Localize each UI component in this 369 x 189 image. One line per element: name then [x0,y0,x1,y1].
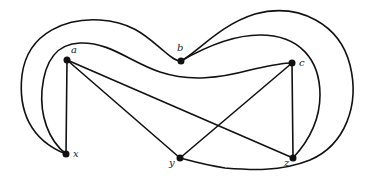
node-a [64,57,71,64]
graph-diagram: a b c x y z [0,0,369,189]
node-y [177,155,184,162]
edge-c-z [292,63,293,158]
edge-a-z [67,60,293,158]
label-b: b [177,42,183,53]
label-x: x [73,148,79,159]
node-z [290,155,297,162]
edge-x-b-outer [21,20,181,154]
label-a: a [71,44,77,55]
edge-x-c-inner [42,43,292,154]
label-z: z [283,157,290,168]
node-x [63,151,70,158]
label-y: y [168,157,175,168]
node-c [289,60,296,67]
label-c: c [299,57,305,68]
node-b [178,58,185,65]
edge-a-x [66,60,67,154]
edge-a-y [67,60,180,158]
